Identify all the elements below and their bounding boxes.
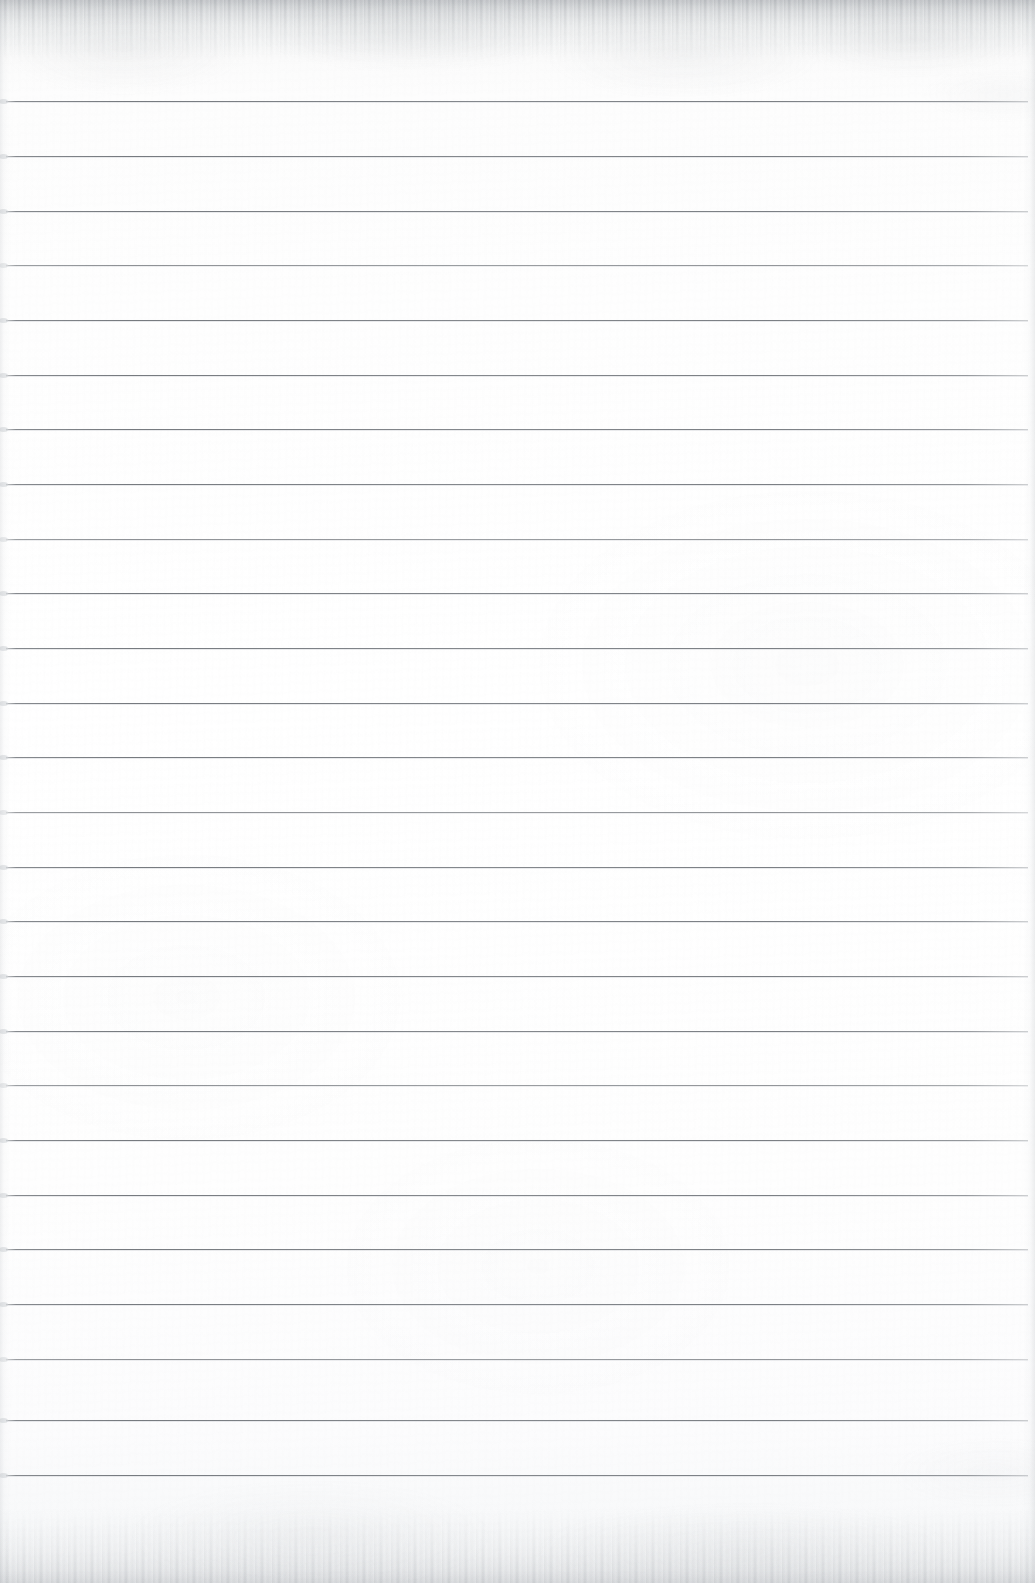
scanned-page [0, 0, 1035, 1583]
paper-surface [0, 0, 1035, 1583]
